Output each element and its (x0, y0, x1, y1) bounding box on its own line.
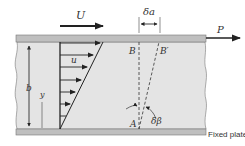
point-b-label: B (128, 46, 136, 56)
velocity-u-label: u (71, 55, 77, 65)
point-a-label: A (129, 119, 137, 129)
gap-b-label: b (26, 83, 32, 93)
fixed-plate-label: Fixed plate (208, 130, 245, 139)
top-velocity-label: U (76, 9, 86, 22)
moving-plate (16, 35, 206, 42)
couette-flow-diagram: U P δa u b y B B′ A δβ Fixed plate (0, 0, 245, 146)
force-label: P (216, 24, 224, 35)
fixed-plate (16, 129, 206, 135)
fluid-region (15, 42, 206, 129)
height-y-label: y (39, 90, 45, 99)
delta-beta-label: δβ (151, 116, 162, 126)
point-b-prime-label: B′ (159, 46, 169, 56)
delta-a-label: δa (143, 6, 155, 17)
